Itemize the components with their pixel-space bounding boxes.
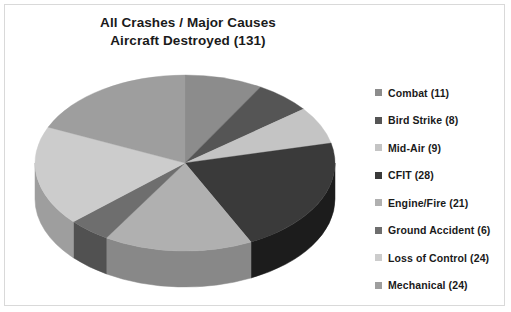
chart-title: All Crashes / Major Causes Aircraft Dest… [5,14,371,50]
legend-item-label: Loss of Control (24) [388,252,489,264]
legend-item[interactable]: Mechanical (24) [373,272,511,300]
legend-swatch-icon [375,144,382,151]
pie-chart-svg [21,67,371,292]
legend-item-label: Engine/Fire (21) [388,197,468,209]
legend-swatch-icon [375,172,382,179]
legend: Combat (11) Bird Strike (8) Mid-Air (9) … [373,79,511,299]
legend-item-label: Bird Strike (8) [388,114,458,126]
pie-chart [21,67,371,292]
legend-item-label: CFIT (28) [388,169,434,181]
legend-item-label: Combat (11) [388,87,449,99]
legend-item[interactable]: Mid-Air (9) [373,134,511,162]
legend-swatch-icon [375,227,382,234]
legend-item[interactable]: Combat (11) [373,79,511,107]
legend-item-label: Mechanical (24) [388,279,468,291]
legend-item[interactable]: CFIT (28) [373,162,511,190]
pie-slices [35,75,335,251]
legend-swatch-icon [375,199,382,206]
legend-item[interactable]: Ground Accident (6) [373,217,511,245]
legend-swatch-icon [375,89,382,96]
chart-frame: All Crashes / Major Causes Aircraft Dest… [4,4,505,306]
legend-item-label: Ground Accident (6) [388,224,490,236]
legend-swatch-icon [375,282,382,289]
legend-item[interactable]: Loss of Control (24) [373,244,511,272]
chart-title-line-1: All Crashes / Major Causes [5,14,371,32]
legend-swatch-icon [375,254,382,261]
legend-item-label: Mid-Air (9) [388,142,441,154]
legend-swatch-icon [375,117,382,124]
legend-item[interactable]: Bird Strike (8) [373,107,511,135]
chart-title-line-2: Aircraft Destroyed (131) [5,32,371,50]
legend-item[interactable]: Engine/Fire (21) [373,189,511,217]
